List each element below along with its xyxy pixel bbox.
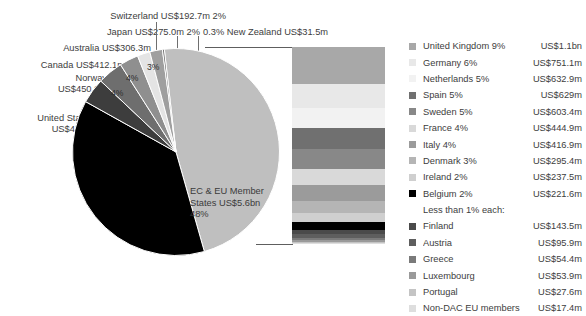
legend-value: US$17.4m xyxy=(538,303,582,313)
legend-label: Italy 4% xyxy=(423,140,529,150)
pie-label-line3: 48% xyxy=(190,209,209,219)
legend-value: US$221.6m xyxy=(533,189,582,199)
legend-row[interactable]: Sweden 5%US$603.4m xyxy=(409,104,582,120)
legend-swatch-icon xyxy=(409,108,416,115)
legend-row[interactable]: AustriaUS$95.9m xyxy=(409,235,582,251)
legend-swatch-icon xyxy=(409,59,416,66)
pie-svg xyxy=(72,48,280,256)
legend-label: Ireland 2% xyxy=(423,172,529,182)
pie-pct-australia: 3% xyxy=(147,62,159,72)
legend-row[interactable]: FinlandUS$143.5m xyxy=(409,218,582,234)
legend-label: Spain 5% xyxy=(423,90,537,100)
legend-swatch-icon xyxy=(409,223,416,230)
pie-pct-canada: 4% xyxy=(126,73,138,83)
bar-segment-denmark xyxy=(292,201,385,213)
legend-row[interactable]: PortugalUS$27.6m xyxy=(409,284,582,300)
legend-label: Finland xyxy=(423,221,529,231)
legend-value: US$237.5m xyxy=(533,172,582,182)
legend-rows: United Kingdom 9%US$1.1bnGermany 6%US$75… xyxy=(409,38,582,202)
legend-row[interactable]: GreeceUS$54.4m xyxy=(409,251,582,267)
pie-pct-norway: 4% xyxy=(111,88,123,98)
callout-new-zealand: 0.3% New Zealand US$31.5m xyxy=(203,27,383,38)
legend-label: Portugal xyxy=(423,287,534,297)
legend-swatch-icon xyxy=(409,272,416,279)
legend-label: Austria xyxy=(423,238,534,248)
legend-swatch-icon xyxy=(409,125,416,132)
bar-segment-italy xyxy=(292,185,385,201)
connector-bottom xyxy=(256,244,293,245)
legend-value: US$632.9m xyxy=(533,74,582,84)
bar-segment-sweden xyxy=(292,149,385,169)
pie-label-ec-eu: EC & EU Member States US$5.6bn 48% xyxy=(190,186,298,221)
legend-value: US$603.4m xyxy=(533,107,582,117)
legend-label: Non-DAC EU members xyxy=(423,303,534,313)
legend-label: Germany 6% xyxy=(423,58,529,68)
legend-value: US$416.9m xyxy=(533,140,582,150)
legend-rows-sub: FinlandUS$143.5mAustriaUS$95.9mGreeceUS$… xyxy=(409,218,582,316)
bar-segment-non-dac-eu-members xyxy=(292,243,385,244)
legend-row[interactable]: France 4%US$444.9m xyxy=(409,120,582,136)
legend-row[interactable]: Germany 6%US$751.1m xyxy=(409,54,582,70)
legend-value: US$95.9m xyxy=(538,238,582,248)
legend-value: US$1.1bn xyxy=(541,41,582,51)
callout-japan: Japan US$275.0m 2% xyxy=(0,27,200,38)
pie-label-line2: States US$5.6bn xyxy=(190,198,260,208)
legend-subheading-label: Less than 1% each: xyxy=(423,205,582,215)
legend-value: US$295.4m xyxy=(533,156,582,166)
pie-label-line1: EC & EU Member xyxy=(190,186,264,196)
bar-segment-netherlands xyxy=(292,108,385,128)
legend-row[interactable]: United Kingdom 9%US$1.1bn xyxy=(409,38,582,54)
bar-segment-germany xyxy=(292,84,385,108)
legend-row[interactable]: Denmark 3%US$295.4m xyxy=(409,153,582,169)
legend-value: US$629m xyxy=(541,90,582,100)
legend-value: US$143.5m xyxy=(533,221,582,231)
legend-swatch-icon xyxy=(409,157,416,164)
pie-chart xyxy=(72,48,280,256)
legend-label: Sweden 5% xyxy=(423,107,529,117)
leader-line-switzerland xyxy=(156,22,157,50)
legend-label: United Kingdom 9% xyxy=(423,41,537,51)
legend-label: Luxembourg xyxy=(423,271,534,281)
bar-segment-belgium xyxy=(292,222,385,230)
legend-swatch-icon xyxy=(409,289,416,296)
legend-value: US$444.9m xyxy=(533,123,582,133)
bar-segment-france xyxy=(292,169,385,185)
bar-segment-spain xyxy=(292,128,385,148)
legend-row[interactable]: Netherlands 5%US$632.9m xyxy=(409,71,582,87)
legend-label: Netherlands 5% xyxy=(423,74,529,84)
legend-row[interactable]: Non-DAC EU membersUS$17.4m xyxy=(409,300,582,316)
legend-swatch-icon xyxy=(409,75,416,82)
legend-swatch-icon xyxy=(409,141,416,148)
legend-row[interactable]: Spain 5%US$629m xyxy=(409,87,582,103)
breakout-stacked-bar xyxy=(292,47,385,244)
legend-label: Denmark 3% xyxy=(423,156,529,166)
connector-top xyxy=(205,47,293,48)
legend-value: US$751.1m xyxy=(533,58,582,68)
legend-value: US$53.9m xyxy=(538,271,582,281)
bar-segment-united-kingdom xyxy=(292,47,385,84)
legend-row[interactable]: Belgium 2%US$221.6m xyxy=(409,186,582,202)
pie-slices xyxy=(73,49,280,256)
legend-swatch-icon xyxy=(409,256,416,263)
legend-swatch-icon xyxy=(409,43,416,50)
legend-swatch-icon xyxy=(409,305,416,312)
legend-swatch-icon xyxy=(409,239,416,246)
legend-subheading-spacer xyxy=(409,207,416,214)
legend-value: US$27.6m xyxy=(538,287,582,297)
legend-swatch-icon xyxy=(409,92,416,99)
legend-row[interactable]: LuxembourgUS$53.9m xyxy=(409,267,582,283)
legend-row[interactable]: Italy 4%US$416.9m xyxy=(409,136,582,152)
legend-swatch-icon xyxy=(409,190,416,197)
legend-label: Belgium 2% xyxy=(423,189,529,199)
bar-segment-ireland xyxy=(292,213,385,221)
legend-subheading-row: Less than 1% each: xyxy=(409,202,582,218)
legend-label: Greece xyxy=(423,254,534,264)
callout-switzerland: Switzerland US$192.7m 2% xyxy=(0,11,226,22)
legend-row[interactable]: Ireland 2%US$237.5m xyxy=(409,169,582,185)
legend-value: US$54.4m xyxy=(538,254,582,264)
legend-label: France 4% xyxy=(423,123,529,133)
legend: United Kingdom 9%US$1.1bnGermany 6%US$75… xyxy=(409,38,582,316)
legend-swatch-icon xyxy=(409,174,416,181)
